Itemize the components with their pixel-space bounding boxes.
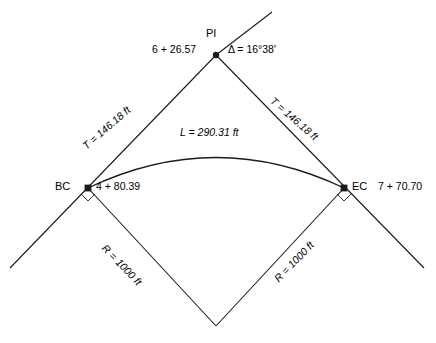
diagram-geometry xyxy=(0,0,436,343)
bc-station-label: 4 + 80.39 xyxy=(96,181,140,192)
back-tangent-line xyxy=(10,55,216,268)
ec-label: EC xyxy=(352,181,367,192)
forward-tangent-line xyxy=(216,55,424,268)
right-angle-mark-bc xyxy=(81,194,95,201)
pi-label: PI xyxy=(206,28,216,39)
radius-line-right xyxy=(216,188,344,326)
bc-label: BC xyxy=(55,181,70,192)
delta-angle-label: Δ = 16°38′ xyxy=(228,44,276,55)
arc-length-label: L = 290.31 ft xyxy=(180,127,238,138)
pi-point-marker xyxy=(213,52,219,58)
pi-station-label: 6 + 26.57 xyxy=(152,44,196,55)
curve-diagram: PI 6 + 26.57 Δ = 16°38′ BC 4 + 80.39 EC … xyxy=(0,0,436,343)
ec-station-label: 7 + 70.70 xyxy=(378,181,422,192)
right-angle-mark-ec xyxy=(337,194,351,201)
ec-point-marker xyxy=(341,185,348,192)
bc-point-marker xyxy=(85,185,92,192)
